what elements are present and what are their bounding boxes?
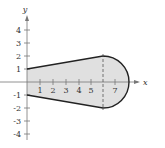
y-tick-label: -4 <box>13 130 21 139</box>
y-tick-label: -3 <box>13 117 21 126</box>
y-axis-label: y <box>22 5 28 14</box>
x-tick-label: 3 <box>63 86 68 95</box>
y-tick-label: 3 <box>16 39 21 48</box>
y-tick-label: -2 <box>13 104 21 113</box>
x-tick-label: 1 <box>37 86 42 95</box>
x-axis-label: x <box>143 78 148 87</box>
x-tick-label: 5 <box>88 86 93 95</box>
y-tick-label: -1 <box>13 91 21 100</box>
x-axis-arrow <box>134 80 140 84</box>
x-tick-label: 7 <box>112 86 117 95</box>
y-tick-label: 1 <box>16 65 21 74</box>
y-tick-label: 4 <box>16 26 21 35</box>
x-tick-label: 4 <box>76 86 81 95</box>
y-axis-arrow <box>25 15 29 21</box>
chart: 1 2 3 4 5 7 4 3 2 1 -1 -2 -3 -4 x y <box>0 0 165 148</box>
y-tick-label: 2 <box>16 52 21 61</box>
x-tick-label: 2 <box>50 86 55 95</box>
